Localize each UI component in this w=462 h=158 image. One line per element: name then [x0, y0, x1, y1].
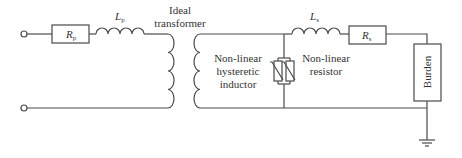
secondary-resistor: Rs — [349, 26, 386, 44]
nl-resistor-line2: resistor — [310, 65, 343, 77]
circuit-diagram: Rp Lp Ideal transformer Non-linear hyste… — [0, 0, 462, 158]
primary-resistor: Rp — [52, 25, 89, 43]
burden: Burden — [414, 44, 441, 101]
nonlinear-shunt-branch — [270, 34, 295, 108]
burden-label: Burden — [421, 55, 433, 88]
ls-symbol: L — [309, 10, 316, 22]
transformer-secondary-coil — [194, 34, 200, 108]
transformer-label-line1: Ideal — [169, 4, 191, 16]
rs-sub: s — [369, 35, 372, 43]
transformer-label-line2: transformer — [154, 17, 206, 29]
nl-resistor-line1: Non-linear — [302, 52, 350, 64]
hysteretic-line2: hysteretic — [217, 65, 260, 77]
hysteretic-inductor-label: Non-linear hysteretic inductor — [214, 52, 262, 90]
secondary-inductor: Ls — [292, 10, 340, 34]
svg-text:Lp: Lp — [114, 10, 125, 24]
hysteretic-line1: Non-linear — [214, 52, 262, 64]
transformer-label: Ideal transformer — [154, 4, 206, 29]
ls-sub: s — [316, 16, 319, 24]
input-bottom-terminal — [21, 105, 27, 111]
rp-sub: p — [73, 34, 77, 42]
nonlinear-resistor-symbol — [282, 58, 295, 84]
nonlinear-resistor-label: Non-linear resistor — [302, 52, 350, 77]
ground-icon — [419, 140, 435, 146]
svg-text:Ls: Ls — [309, 10, 319, 24]
primary-inductor: Lp — [96, 10, 144, 34]
hysteretic-line3: inductor — [220, 78, 257, 90]
lp-sub: p — [121, 16, 125, 24]
nonlinear-inductor-symbol — [270, 58, 283, 84]
wire — [386, 34, 427, 44]
lp-symbol: L — [114, 10, 121, 22]
input-top-terminal — [21, 31, 27, 37]
transformer-primary-coil — [168, 34, 174, 108]
